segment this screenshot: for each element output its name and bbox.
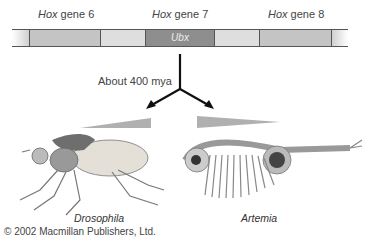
expression-wedge-drosophila [80,118,151,128]
expression-wedge-artemia [197,116,280,128]
artemia-illustration-icon [185,140,362,198]
branch-arrows-icon [150,54,210,106]
diagram-graphics [0,0,365,244]
drosophila-illustration-icon [20,134,164,215]
organism-label-artemia: Artemia [241,212,277,224]
copyright-notice: © 2002 Macmillan Publishers, Ltd. [4,226,156,237]
organism-label-drosophila: Drosophila [74,212,124,224]
